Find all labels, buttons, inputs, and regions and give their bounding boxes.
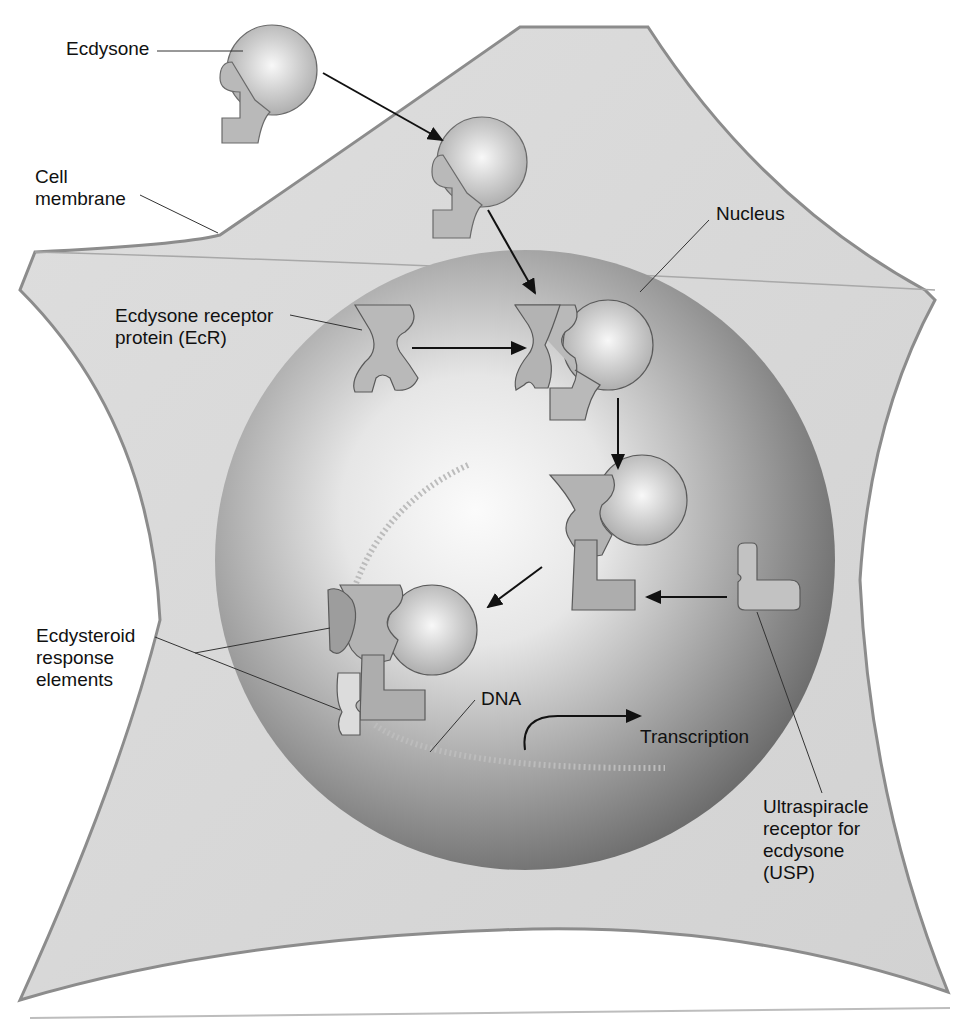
baseline	[30, 1008, 950, 1018]
label-nucleus: Nucleus	[716, 203, 785, 225]
leader-membrane	[140, 195, 218, 233]
ecdysone-pathway-diagram: Ecdysone Cell membrane Nucleus Ecdysone …	[0, 0, 961, 1027]
label-transcription: Transcription	[640, 726, 749, 748]
label-usp: Ultraspiracle receptor for ecdysone (USP…	[763, 796, 869, 884]
label-dna: DNA	[481, 688, 521, 710]
ecdysone-molecule-outside	[220, 25, 317, 143]
label-ecdysteroid-response-elements: Ecdysteroid response elements	[36, 625, 135, 691]
label-ecr: Ecdysone receptor protein (EcR)	[115, 305, 273, 349]
label-cell-membrane: Cell membrane	[35, 166, 126, 210]
label-ecdysone: Ecdysone	[66, 38, 149, 60]
